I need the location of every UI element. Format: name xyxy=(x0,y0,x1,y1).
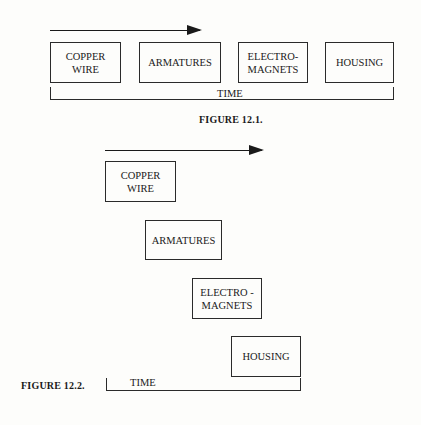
figure-caption: FIGURE 12.1. xyxy=(199,114,263,125)
step-housing: HOUSING xyxy=(231,336,301,377)
time-arrow-icon xyxy=(105,150,262,151)
time-label: TIME xyxy=(130,377,156,388)
step-copper-wire: COPPERWIRE xyxy=(105,161,176,202)
step-copper-wire: COPPERWIRE xyxy=(50,42,121,83)
step-armatures: ARMATURES xyxy=(139,42,221,83)
step-electromagnets: ELECTRO-MAGNETS xyxy=(238,42,308,83)
step-armatures: ARMATURES xyxy=(145,220,222,260)
figure-caption: FIGURE 12.2. xyxy=(21,380,85,391)
time-label: TIME xyxy=(217,88,243,99)
step-housing: HOUSING xyxy=(325,42,394,83)
time-arrow-icon xyxy=(50,30,200,31)
step-electromagnets: ELECTRO -MAGNETS xyxy=(192,278,262,319)
